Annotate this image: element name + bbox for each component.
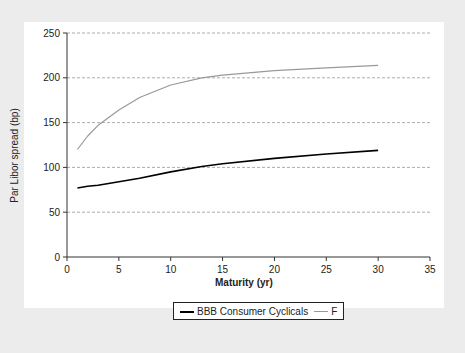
x-tick-label: 30 — [373, 264, 385, 275]
x-tick-label: 20 — [269, 264, 281, 275]
y-tick-label: 200 — [43, 72, 60, 83]
legend-swatch-gray — [314, 311, 328, 312]
x-tick-label: 10 — [165, 264, 177, 275]
x-tick-label: 25 — [321, 264, 333, 275]
x-tick-label: 0 — [64, 264, 70, 275]
legend: BBB Consumer Cyclicals F — [173, 302, 344, 320]
series-line-bbb — [77, 150, 378, 188]
legend-swatch-black — [180, 311, 194, 313]
x-tick-label: 35 — [424, 264, 436, 275]
x-axis-label: Maturity (yr) — [215, 277, 273, 288]
y-tick-label: 150 — [43, 117, 60, 128]
x-tick-label: 15 — [217, 264, 229, 275]
chart-frame: 05010015020025005101520253035 Par Libor … — [0, 0, 465, 353]
y-tick-label: 100 — [43, 162, 60, 173]
legend-item-f: F — [314, 306, 337, 317]
x-tick-label: 5 — [116, 264, 122, 275]
y-axis-label: Par Libor spread (bp) — [9, 96, 20, 216]
legend-item-bbb: BBB Consumer Cyclicals — [180, 306, 308, 317]
y-tick-label: 0 — [54, 252, 60, 263]
plot-area: 05010015020025005101520253035 — [0, 0, 465, 353]
y-tick-label: 50 — [49, 207, 61, 218]
y-tick-label: 250 — [43, 28, 60, 39]
